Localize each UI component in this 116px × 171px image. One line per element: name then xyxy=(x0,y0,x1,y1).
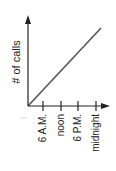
x-tick-label-6am: 6 A.M. xyxy=(37,114,48,142)
x-axis-arrow-icon xyxy=(101,103,110,109)
y-axis-label: # of calls xyxy=(10,40,22,84)
x-tick-label-6pm: 6 P.M. xyxy=(72,114,83,142)
data-line xyxy=(28,28,101,106)
x-tick-label-midnight: midnight xyxy=(90,114,101,152)
line-chart: # of calls 6 A.M. noon 6 P.M. midnight xyxy=(0,0,116,171)
x-tick-label-noon: noon xyxy=(55,114,66,136)
y-axis-arrow-icon xyxy=(25,15,31,24)
